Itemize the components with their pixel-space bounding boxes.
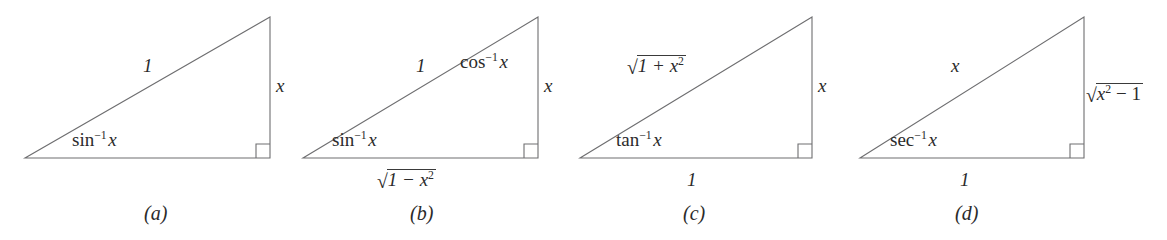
triangle-geometry: [0, 0, 1167, 240]
caption-c: (c): [683, 203, 705, 223]
triangle-b-base-angle-label: sin−1 x: [332, 130, 377, 149]
triangle-b-adjacent-label: √1 − x2: [377, 170, 436, 191]
triangle-a-hypotenuse-label: 1: [143, 56, 153, 75]
triangle-b-hypotenuse-label: 1: [416, 56, 426, 75]
triangle-d-adjacent-label: 1: [960, 170, 970, 189]
triangle-b-top-angle-label: cos−1 x: [460, 52, 508, 71]
triangle-c-adjacent-label: 1: [687, 170, 697, 189]
triangle-a-shape: [25, 17, 270, 158]
triangle-d-opposite-label: √x2 − 1: [1086, 84, 1143, 105]
triangle-c-opposite-label: x: [818, 76, 826, 95]
triangle-a-opposite-label: x: [276, 76, 284, 95]
triangle-c-hypotenuse-label: √1 + x2: [627, 56, 686, 77]
triangle-c-base-angle-label: tan−1 x: [616, 130, 662, 149]
inverse-trig-triangles-figure: 1 x sin−1 x (a) 1 cos−1 x x sin−1 x √1 −…: [0, 0, 1167, 240]
caption-b: (b): [410, 203, 433, 223]
triangle-d-base-angle-label: sec−1 x: [890, 130, 937, 149]
caption-d: (d): [955, 203, 978, 223]
triangle-a-base-angle-label: sin−1 x: [72, 130, 117, 149]
triangle-b-opposite-label: x: [544, 76, 552, 95]
triangle-d-hypotenuse-label: x: [951, 56, 959, 75]
caption-a: (a): [144, 203, 167, 223]
triangle-c-shape: [580, 17, 812, 158]
